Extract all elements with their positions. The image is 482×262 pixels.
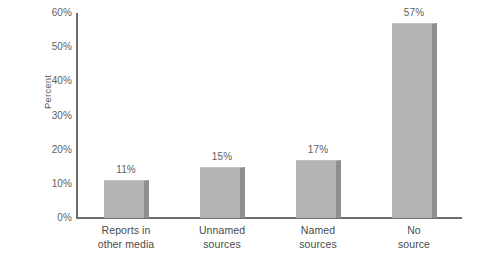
- plot-area: 11%15%17%57%: [78, 13, 462, 218]
- x-axis-category-label: Reports inother media: [78, 224, 174, 251]
- bar-value-label: 11%: [116, 164, 136, 175]
- bar: [104, 180, 149, 218]
- y-axis-tick-label: 20%: [38, 145, 72, 155]
- bar-column: 15%: [200, 13, 245, 218]
- bar-column: 11%: [104, 13, 149, 218]
- x-axis-category-labels: Reports inother mediaUnnamedsourcesNamed…: [78, 224, 462, 262]
- bar: [392, 23, 437, 218]
- bar-column: 17%: [296, 13, 341, 218]
- x-axis-category-label: Nosource: [366, 224, 462, 251]
- y-axis-tick-label: 50%: [38, 42, 72, 52]
- x-axis-category-label-line: Reports in: [78, 224, 174, 238]
- x-axis-category-label-line: sources: [270, 238, 366, 252]
- x-axis-category-label: Namedsources: [270, 224, 366, 251]
- bar-column: 57%: [392, 13, 437, 218]
- y-axis-tick-labels: 0%10%20%30%40%50%60%: [34, 0, 72, 262]
- bar-value-label: 17%: [308, 144, 328, 155]
- bar: [200, 167, 245, 218]
- y-axis-tick-label: 10%: [38, 179, 72, 189]
- x-axis-category-label-line: No: [366, 224, 462, 238]
- x-axis-category-label: Unnamedsources: [174, 224, 270, 251]
- y-axis-tick-label: 30%: [38, 111, 72, 121]
- y-axis-tick-label: 0%: [38, 213, 72, 223]
- bar-value-label: 15%: [212, 151, 232, 162]
- x-axis-category-label-line: Named: [270, 224, 366, 238]
- x-axis-category-label-line: Unnamed: [174, 224, 270, 238]
- x-axis-category-label-line: other media: [78, 238, 174, 252]
- bar: [296, 160, 341, 218]
- y-axis-tick-label: 40%: [38, 76, 72, 86]
- x-axis-category-label-line: sources: [174, 238, 270, 252]
- y-axis-tick-label: 60%: [38, 8, 72, 18]
- bar-chart: Percent 0%10%20%30%40%50%60% 11%15%17%57…: [0, 0, 482, 262]
- x-axis-category-label-line: source: [366, 238, 462, 252]
- bar-value-label: 57%: [404, 7, 424, 18]
